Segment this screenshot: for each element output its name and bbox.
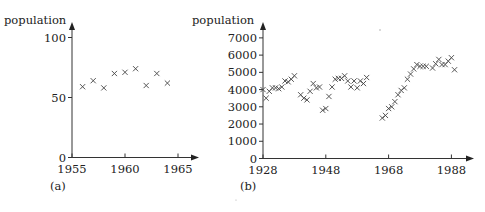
y-tick-label: 2000 xyxy=(228,117,257,131)
chart-panel-b: population010002000300040005000600070001… xyxy=(192,13,474,193)
panel-label: (b) xyxy=(240,179,256,193)
data-point-x-marker-icon xyxy=(311,81,316,86)
data-point-x-marker-icon xyxy=(133,66,138,71)
data-point-x-marker-icon xyxy=(122,70,127,75)
data-point-x-marker-icon xyxy=(452,67,457,72)
data-point-x-marker-icon xyxy=(101,85,106,90)
x-tick-label: 1968 xyxy=(374,163,403,177)
data-point-x-marker-icon xyxy=(80,84,85,89)
data-point-x-marker-icon xyxy=(405,77,410,82)
data-point-x-marker-icon xyxy=(308,89,313,94)
data-point-x-marker-icon xyxy=(364,75,369,80)
y-tick-label: 3000 xyxy=(228,100,257,114)
x-tick-label: 1965 xyxy=(163,162,192,176)
y-axis-arrow-icon xyxy=(69,22,75,30)
y-tick-label: 5000 xyxy=(228,65,257,79)
x-tick-label: 1928 xyxy=(248,163,277,177)
data-point-x-marker-icon xyxy=(326,94,331,99)
data-point-x-marker-icon xyxy=(351,78,356,83)
y-tick-label: 6000 xyxy=(228,48,257,62)
data-point-x-marker-icon xyxy=(436,57,441,62)
data-point-x-marker-icon xyxy=(154,71,159,76)
y-axis-arrow-icon xyxy=(260,22,266,30)
stray-dot xyxy=(379,29,380,30)
data-point-x-marker-icon xyxy=(112,71,117,76)
stray-dot xyxy=(235,199,236,200)
data-point-x-marker-icon xyxy=(345,78,350,83)
data-point-x-marker-icon xyxy=(433,61,438,66)
data-point-x-marker-icon xyxy=(355,85,360,90)
data-point-x-marker-icon xyxy=(361,81,366,86)
data-point-x-marker-icon xyxy=(342,73,347,78)
panel-label: (a) xyxy=(50,179,66,193)
data-point-x-marker-icon xyxy=(348,84,353,89)
data-point-x-marker-icon xyxy=(91,78,96,83)
data-point-x-marker-icon xyxy=(395,92,400,97)
data-point-x-marker-icon xyxy=(424,64,429,69)
y-axis-label: population xyxy=(4,13,67,27)
y-tick-label: 4000 xyxy=(228,83,257,97)
data-point-x-marker-icon xyxy=(329,84,334,89)
data-point-x-marker-icon xyxy=(264,96,269,101)
y-tick-label: 1000 xyxy=(228,134,257,148)
data-point-x-marker-icon xyxy=(383,113,388,118)
data-point-x-marker-icon xyxy=(165,81,170,86)
x-tick-label: 1960 xyxy=(110,162,139,176)
y-tick-label: 7000 xyxy=(228,31,257,45)
x-tick-label: 1948 xyxy=(311,163,340,177)
x-axis-arrow-icon xyxy=(466,156,474,162)
x-tick-label: 1988 xyxy=(437,163,466,177)
data-point-x-marker-icon xyxy=(402,85,407,90)
data-point-x-marker-icon xyxy=(392,99,397,104)
chart-canvas: population050100195519601965(a) populati… xyxy=(0,0,485,212)
data-point-x-marker-icon xyxy=(408,71,413,76)
y-tick-label: 50 xyxy=(51,91,66,105)
x-axis-arrow-icon xyxy=(191,155,199,161)
data-point-x-marker-icon xyxy=(411,66,416,71)
data-point-x-marker-icon xyxy=(449,55,454,60)
y-axis-label: population xyxy=(192,13,255,27)
x-tick-label: 1955 xyxy=(57,162,86,176)
data-point-x-marker-icon xyxy=(144,83,149,88)
y-tick-label: 100 xyxy=(44,31,66,45)
data-point-x-marker-icon xyxy=(292,73,297,78)
data-point-x-marker-icon xyxy=(430,65,435,70)
chart-panel-a: population050100195519601965(a) xyxy=(4,13,199,193)
